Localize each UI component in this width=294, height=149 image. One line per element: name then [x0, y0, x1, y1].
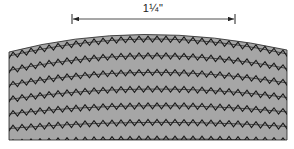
dimension-marker: [72, 14, 235, 24]
fabric-swatch-diagram: [0, 0, 294, 149]
